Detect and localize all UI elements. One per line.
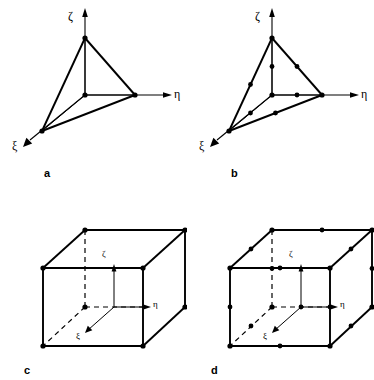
- axis-lines-c: [88, 268, 147, 330]
- node-midside: [349, 247, 354, 252]
- panel-b-drawing: [187, 0, 374, 190]
- node-corner: [227, 265, 232, 270]
- node-midside: [295, 64, 300, 69]
- node-midside: [270, 266, 275, 271]
- axis-label-xi: ξ: [76, 332, 80, 341]
- panel-a-linear-tetrahedron: ζ η ξ a: [0, 0, 187, 190]
- edge-front-tl-back-tl: [43, 230, 85, 268]
- panel-c-linear-hexahedron: ζ η ξ c: [0, 190, 187, 380]
- node-corner: [227, 343, 232, 348]
- node-corner: [132, 92, 137, 97]
- edge-apex-eta: [85, 38, 135, 95]
- node-midside: [248, 82, 253, 87]
- node-corner: [39, 128, 44, 133]
- axis-arrowheads-d: [272, 264, 338, 333]
- axis-label-eta: η: [153, 300, 158, 309]
- axis-label-xi: ξ: [199, 140, 204, 152]
- node-corner: [82, 227, 87, 232]
- node-midside: [278, 344, 283, 349]
- node-midside: [349, 324, 354, 329]
- node-midside: [270, 64, 275, 69]
- node-midside: [249, 247, 254, 252]
- tetra-corner-nodes-b: [226, 35, 324, 133]
- node-midside: [295, 93, 300, 98]
- origin-edge-xi: [42, 95, 85, 131]
- axis-label-zeta: ζ: [102, 250, 106, 259]
- edge-front-br-back-br: [143, 307, 185, 346]
- axis-label-xi: ξ: [263, 332, 267, 341]
- node-midside: [299, 305, 304, 310]
- node-midside: [328, 305, 333, 310]
- axis-label-zeta: ζ: [255, 10, 260, 22]
- panel-b-quadratic-tetrahedron: ζ η ξ b: [187, 0, 374, 190]
- axis-lines-a: [30, 12, 168, 140]
- axis-label-zeta: ζ: [289, 250, 293, 259]
- node-origin: [269, 92, 274, 97]
- xi-axis-line: [88, 307, 114, 330]
- eta-arrowhead: [163, 92, 172, 98]
- axis-arrowheads-c: [85, 264, 151, 333]
- figure-root: ζ η ξ a: [0, 0, 374, 380]
- hidden-edges-d: [230, 230, 330, 346]
- node-midside: [228, 305, 233, 310]
- node-corner: [82, 304, 87, 309]
- node-midside: [249, 324, 254, 329]
- node-corner: [269, 35, 274, 40]
- node-corner: [40, 343, 45, 348]
- eta-arrowhead: [144, 305, 152, 310]
- tetra-origin-edges-b: [229, 38, 322, 131]
- panel-d-quadratic-hexahedron: ζ η ξ d: [187, 190, 374, 380]
- panel-a-drawing: [0, 0, 187, 190]
- node-corner: [269, 227, 274, 232]
- node-midside: [278, 266, 283, 271]
- panel-label-b: b: [231, 168, 238, 179]
- node-corner: [140, 265, 145, 270]
- hidden-edges-c: [43, 230, 143, 346]
- axis-label-eta: η: [361, 88, 367, 100]
- panel-label-d: d: [211, 365, 218, 376]
- xi-axis-line: [275, 307, 301, 330]
- zeta-arrowhead: [269, 8, 275, 17]
- panel-d-drawing: [187, 190, 374, 380]
- axis-lines-d: [275, 268, 334, 330]
- tetra-edges-a: [42, 38, 135, 131]
- node-midside: [370, 266, 374, 271]
- node-corner: [327, 343, 332, 348]
- panel-label-a: a: [44, 168, 50, 179]
- panel-label-c: c: [24, 365, 30, 376]
- node-midside: [248, 111, 253, 116]
- node-corner: [226, 128, 231, 133]
- node-midside: [320, 228, 325, 233]
- zeta-arrowhead: [82, 8, 88, 17]
- axis-label-xi: ξ: [12, 140, 17, 152]
- tetra-edges-b: [229, 38, 322, 131]
- node-corner: [269, 304, 274, 309]
- axis-label-zeta: ζ: [68, 10, 73, 22]
- node-corner: [40, 265, 45, 270]
- node-corner: [327, 265, 332, 270]
- node-midside: [273, 111, 278, 116]
- axis-lines-b: [217, 12, 355, 140]
- eta-arrowhead: [350, 92, 359, 98]
- axis-arrowheads-b: [210, 8, 359, 147]
- axis-label-eta: η: [340, 300, 345, 309]
- edge-front-tr-back-tr: [143, 230, 185, 268]
- tetra-nodes-a: [39, 35, 137, 133]
- axis-label-eta: η: [174, 88, 180, 100]
- panel-c-drawing: [0, 190, 187, 380]
- axis-arrowheads-a: [23, 8, 172, 147]
- node-origin: [82, 92, 87, 97]
- tetra-origin-edges-a: [42, 38, 135, 131]
- node-corner: [319, 92, 324, 97]
- node-corner: [82, 35, 87, 40]
- node-corner: [140, 343, 145, 348]
